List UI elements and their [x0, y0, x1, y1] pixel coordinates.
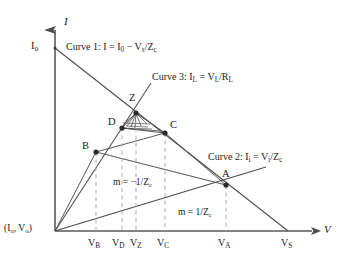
intercept-label-I0-sub: o [35, 44, 39, 53]
point-label-A: A [222, 169, 230, 180]
point-marker-A [223, 182, 228, 187]
point-marker-D [119, 125, 124, 130]
curve-1-prefix: Curve 1: [66, 41, 101, 52]
point-label-Z: Z [129, 93, 135, 104]
axis-label-current: I [64, 16, 68, 27]
axis-label-voltage: V [324, 224, 331, 235]
tick-label-VD: VD [112, 238, 124, 250]
point-marker-Z [133, 110, 138, 115]
intercept-label-I0: Io [31, 41, 38, 52]
curve-2-prefix: Curve 2: [208, 151, 243, 162]
point-label-D: D [108, 117, 116, 128]
tick-label-VD-sub: D [119, 242, 124, 250]
figure-root: I V Io (Io, Vo) Curve 1: I = I0 − Vs/Zc … [0, 0, 342, 267]
curve-2-eq-mid: = V [251, 151, 269, 162]
curve-2-eq-tail: /Z [270, 151, 279, 162]
curve-3-prefix: Curve 3: [152, 71, 187, 82]
tick-label-VA: VA [218, 238, 230, 250]
origin-label: (Io, Vo) [4, 224, 32, 235]
curve-3-eq-sub3: L [228, 76, 232, 84]
point-marker-C [162, 130, 167, 135]
curve-1-annotation: Curve 1: I = I0 − Vs/Zc [66, 42, 157, 54]
curve-3-eq-mid: = V [197, 71, 215, 82]
tick-label-VB-sub: B [95, 242, 100, 250]
point-marker-B [93, 149, 98, 154]
tick-label-VB: VB [88, 238, 100, 250]
tick-label-VZ-sub: Z [137, 242, 141, 250]
curve-1-eq-main: I = I [103, 41, 120, 52]
curve-1-eq-mid: − V [124, 41, 142, 52]
stair-segment-B-C [96, 133, 165, 152]
slope-positive-sub: c [209, 211, 212, 218]
diagram-canvas [0, 0, 342, 267]
tick-label-VC: VC [157, 238, 169, 250]
point-label-C: C [170, 120, 177, 131]
tick-label-VS: VS [281, 238, 292, 250]
origin-mid: , V [14, 223, 25, 233]
curve-1-eq-sub3: c [154, 46, 157, 54]
slope-negative-sub: c [149, 181, 152, 188]
slope-negative-text: m = −1/Z [113, 177, 149, 187]
curve-2-line [55, 167, 266, 231]
slope-negative-annotation: m = −1/Zc [113, 178, 152, 189]
curve-1-eq-tail: /Z [145, 41, 154, 52]
slope-positive-annotation: m = 1/Zc [178, 208, 212, 219]
tick-label-VA-sub: A [225, 242, 230, 250]
slope-positive-text: m = 1/Z [178, 207, 209, 217]
point-label-B: B [82, 141, 89, 152]
origin-close: ) [29, 223, 32, 233]
curve-2-eq-sub3: c [279, 156, 282, 164]
curve-3-line [55, 83, 151, 231]
axis-group [55, 30, 312, 231]
curve-3-annotation: Curve 3: IL = VL/RL [152, 72, 233, 84]
tick-label-VS-sub: S [288, 242, 292, 250]
converge-cross-2 [126, 126, 148, 127]
point-marker-I0 [53, 46, 56, 49]
tick-label-VC-sub: C [164, 242, 169, 250]
tick-label-VZ: VZ [130, 238, 142, 250]
curve-2-annotation: Curve 2: Ii = Vi/Zc [208, 152, 282, 164]
stair-segment-origin-B [55, 152, 96, 231]
